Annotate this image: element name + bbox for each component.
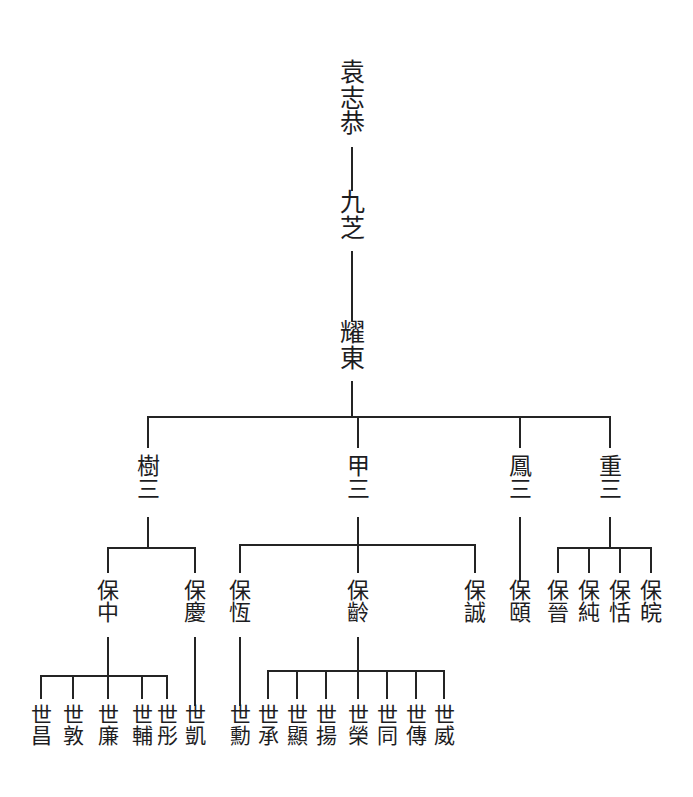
person-name-char: 保 xyxy=(547,580,569,602)
person-name-char: 保 xyxy=(509,580,531,602)
person-node-g6a[interactable]: 世昌 xyxy=(31,705,52,748)
person-name-char: 世 xyxy=(406,705,427,726)
person-node-g6i[interactable]: 世顯 xyxy=(287,705,308,748)
person-name-char: 三 xyxy=(509,478,532,501)
person-name-char: 樹 xyxy=(137,455,160,478)
person-node-g6d[interactable]: 世輔 xyxy=(132,705,153,748)
person-node-g5e[interactable]: 保誠 xyxy=(464,580,486,625)
person-node-g5b[interactable]: 保慶 xyxy=(184,580,206,625)
person-name-char: 世 xyxy=(157,705,178,726)
person-name-char: 廉 xyxy=(98,726,119,747)
person-name-char: 純 xyxy=(578,602,600,624)
person-node-g6f[interactable]: 世凱 xyxy=(185,705,206,748)
person-name-char: 甲 xyxy=(347,455,370,478)
person-name-char: 彤 xyxy=(157,726,178,747)
person-name-char: 世 xyxy=(63,705,84,726)
person-name-char: 袁 xyxy=(340,60,365,86)
person-node-g4d[interactable]: 重三 xyxy=(599,455,622,502)
person-name-char: 威 xyxy=(434,726,455,747)
person-name-char: 敦 xyxy=(63,726,84,747)
person-name-char: 揚 xyxy=(316,726,337,747)
person-name-char: 慶 xyxy=(184,602,206,624)
person-name-char: 勳 xyxy=(230,726,251,747)
person-name-char: 重 xyxy=(599,455,622,478)
person-name-char: 顯 xyxy=(287,726,308,747)
person-name-char: 三 xyxy=(599,478,622,501)
person-name-char: 世 xyxy=(258,705,279,726)
person-name-char: 恬 xyxy=(609,602,631,624)
person-name-char: 誠 xyxy=(464,602,486,624)
person-name-char: 齡 xyxy=(347,602,369,624)
person-name-char: 保 xyxy=(184,580,206,602)
person-node-g4c[interactable]: 鳳三 xyxy=(509,455,532,502)
person-name-char: 頤 xyxy=(509,602,531,624)
person-node-g6k[interactable]: 世榮 xyxy=(348,705,369,748)
person-node-g6h[interactable]: 世承 xyxy=(258,705,279,748)
person-name-char: 世 xyxy=(377,705,398,726)
person-name-char: 東 xyxy=(340,346,365,372)
person-node-g6m[interactable]: 世傳 xyxy=(406,705,427,748)
person-name-char: 晉 xyxy=(547,602,569,624)
person-name-char: 世 xyxy=(98,705,119,726)
person-name-char: 世 xyxy=(185,705,206,726)
genealogy-chart: 袁志恭九芝耀東樹三甲三鳳三重三保中保慶保恆保齡保誠保頤保晉保純保恬保皖世昌世敦世… xyxy=(0,0,693,797)
person-node-n2[interactable]: 九芝 xyxy=(340,190,365,241)
person-name-char: 保 xyxy=(578,580,600,602)
person-name-char: 志 xyxy=(340,86,365,112)
person-node-g5g[interactable]: 保晉 xyxy=(547,580,569,625)
person-name-char: 芝 xyxy=(340,216,365,242)
person-name-char: 世 xyxy=(434,705,455,726)
person-node-g6j[interactable]: 世揚 xyxy=(316,705,337,748)
person-node-g6b[interactable]: 世敦 xyxy=(63,705,84,748)
person-node-g5i[interactable]: 保恬 xyxy=(609,580,631,625)
person-name-char: 保 xyxy=(97,580,119,602)
person-name-char: 九 xyxy=(340,190,365,216)
person-name-char: 三 xyxy=(137,478,160,501)
person-node-g5d[interactable]: 保齡 xyxy=(347,580,369,625)
person-name-char: 中 xyxy=(97,602,119,624)
person-name-char: 榮 xyxy=(348,726,369,747)
person-name-char: 保 xyxy=(609,580,631,602)
person-name-char: 恆 xyxy=(229,602,251,624)
person-node-g4b[interactable]: 甲三 xyxy=(347,455,370,502)
person-node-g6l[interactable]: 世同 xyxy=(377,705,398,748)
person-name-char: 保 xyxy=(640,580,662,602)
person-node-g5h[interactable]: 保純 xyxy=(578,580,600,625)
person-node-n3[interactable]: 耀東 xyxy=(340,320,365,371)
person-name-char: 世 xyxy=(132,705,153,726)
person-name-char: 世 xyxy=(31,705,52,726)
person-node-g6e[interactable]: 世彤 xyxy=(157,705,178,748)
person-name-char: 凱 xyxy=(185,726,206,747)
person-name-char: 同 xyxy=(377,726,398,747)
person-name-char: 傳 xyxy=(406,726,427,747)
person-name-char: 輔 xyxy=(132,726,153,747)
person-name-char: 昌 xyxy=(31,726,52,747)
person-node-g5a[interactable]: 保中 xyxy=(97,580,119,625)
person-node-g4a[interactable]: 樹三 xyxy=(137,455,160,502)
person-name-char: 保 xyxy=(229,580,251,602)
person-node-g5j[interactable]: 保皖 xyxy=(640,580,662,625)
person-name-char: 世 xyxy=(230,705,251,726)
person-name-char: 世 xyxy=(348,705,369,726)
person-node-g6n[interactable]: 世威 xyxy=(434,705,455,748)
person-name-char: 保 xyxy=(464,580,486,602)
person-name-char: 世 xyxy=(287,705,308,726)
person-node-g5f[interactable]: 保頤 xyxy=(509,580,531,625)
person-node-g5c[interactable]: 保恆 xyxy=(229,580,251,625)
person-name-char: 鳳 xyxy=(509,455,532,478)
person-node-n1[interactable]: 袁志恭 xyxy=(340,60,365,137)
person-name-char: 世 xyxy=(316,705,337,726)
person-name-char: 保 xyxy=(347,580,369,602)
person-name-char: 恭 xyxy=(340,111,365,137)
person-name-char: 承 xyxy=(258,726,279,747)
person-name-char: 三 xyxy=(347,478,370,501)
person-node-g6c[interactable]: 世廉 xyxy=(98,705,119,748)
person-name-char: 皖 xyxy=(640,602,662,624)
person-name-char: 耀 xyxy=(340,320,365,346)
person-node-g6g[interactable]: 世勳 xyxy=(230,705,251,748)
